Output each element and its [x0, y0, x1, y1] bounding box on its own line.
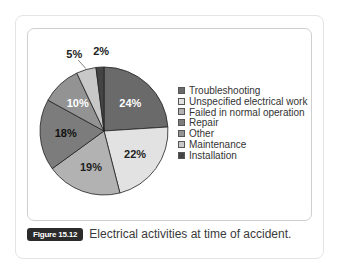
legend-label: Repair	[189, 117, 218, 128]
slice-label: 10%	[67, 97, 89, 109]
slice-label: 24%	[119, 97, 141, 109]
legend-swatch	[178, 98, 185, 105]
legend-item-installation: Installation	[178, 150, 307, 161]
legend-item-failed: Failed in normal operation	[178, 107, 307, 118]
slice-label: 5%	[66, 48, 82, 60]
legend-label: Maintenance	[189, 139, 246, 150]
legend: Troubleshooting Unspecified electrical w…	[178, 85, 307, 161]
slice-label: 18%	[55, 127, 77, 139]
legend-label: Failed in normal operation	[189, 107, 305, 118]
caption-text: Electrical activities at time of acciden…	[89, 227, 291, 241]
legend-item-maintenance: Maintenance	[178, 139, 307, 150]
figure-number-badge: Figure 15.12	[27, 228, 83, 241]
legend-item-troubleshooting: Troubleshooting	[178, 85, 307, 96]
legend-item-unspecified: Unspecified electrical work	[178, 96, 307, 107]
figure-caption: Figure 15.12 Electrical activities at ti…	[27, 227, 291, 241]
legend-swatch	[178, 152, 185, 159]
legend-item-repair: Repair	[178, 117, 307, 128]
slice-label: 19%	[80, 161, 102, 173]
legend-swatch	[178, 119, 185, 126]
slice-label: 2%	[93, 45, 109, 57]
legend-item-other: Other	[178, 128, 307, 139]
legend-label: Troubleshooting	[189, 85, 260, 96]
legend-swatch	[178, 108, 185, 115]
leader-line	[78, 60, 86, 68]
legend-label: Unspecified electrical work	[189, 96, 307, 107]
legend-swatch	[178, 141, 185, 148]
legend-label: Installation	[189, 150, 237, 161]
legend-swatch	[178, 87, 185, 94]
slice-label: 22%	[124, 148, 146, 160]
legend-swatch	[178, 130, 185, 137]
legend-label: Other	[189, 128, 214, 139]
